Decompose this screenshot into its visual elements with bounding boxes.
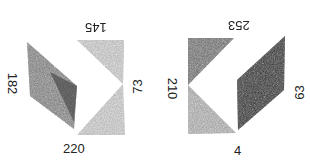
right-side-label: 210 [166,78,179,100]
left-right-label: 73 [131,79,144,93]
diagram-canvas [0,0,310,164]
left-bottom-label: 220 [63,142,85,155]
left-figure [27,40,125,135]
left-top-label: 145 [85,21,107,34]
right-figure [188,36,285,134]
right-bottom-label: 4 [234,144,241,157]
right-top-label: 253 [228,19,250,32]
right-right-label: 63 [293,85,306,99]
left-side-label: 182 [6,73,19,95]
